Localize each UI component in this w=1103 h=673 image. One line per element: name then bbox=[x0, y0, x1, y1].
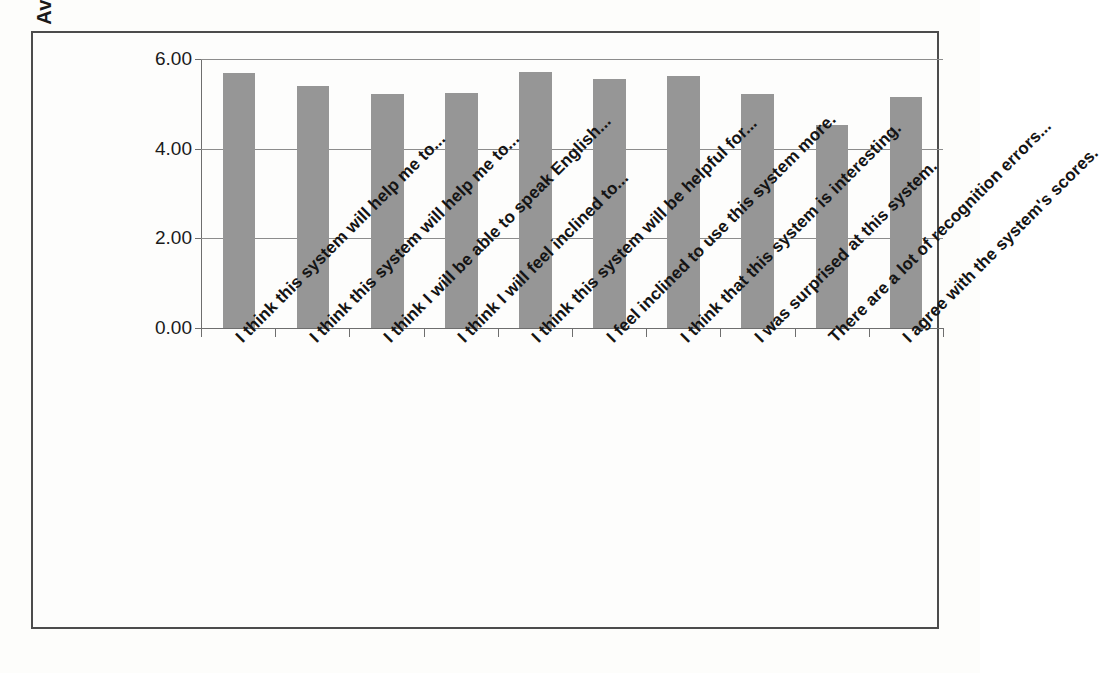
bar bbox=[816, 125, 849, 328]
y-tick-label: 6.00 bbox=[112, 48, 192, 70]
x-axis-category-labels: I think this system will help me to...I … bbox=[202, 329, 944, 619]
y-tick-label: 4.00 bbox=[112, 138, 192, 160]
y-tick-label: 0.00 bbox=[112, 317, 192, 339]
y-tick-mark bbox=[195, 149, 201, 150]
y-axis-title: Average Scores bbox=[31, 0, 57, 73]
y-tick-mark bbox=[195, 238, 201, 239]
bar bbox=[297, 86, 330, 328]
bar-slot bbox=[202, 59, 276, 328]
chart-frame: Average Scores 0.002.004.006.00 I think … bbox=[31, 31, 939, 629]
y-tick-label: 2.00 bbox=[112, 227, 192, 249]
bar bbox=[223, 73, 256, 328]
y-tick-mark bbox=[195, 59, 201, 60]
